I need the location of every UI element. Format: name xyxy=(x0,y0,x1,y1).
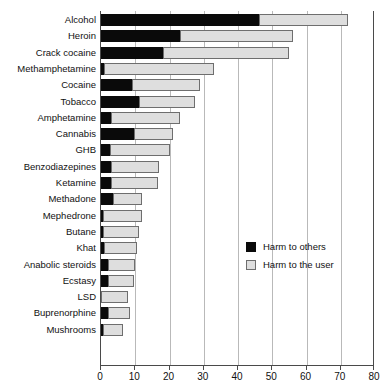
bar-segment-harm-to-the-user xyxy=(108,275,134,287)
bar-segment-harm-to-others xyxy=(101,193,113,205)
legend-swatch-light-gray-square xyxy=(246,260,256,270)
y-axis-label: Cocaine xyxy=(0,79,96,91)
y-axis-label: Anabolic steroids xyxy=(0,259,96,271)
bar-segment-harm-to-others xyxy=(101,30,180,42)
x-axis-tick-labels: 01020304050607080 xyxy=(100,370,374,386)
y-axis-label: Mushrooms xyxy=(0,324,96,336)
bar-segment-harm-to-others xyxy=(101,161,111,173)
bar-segment-harm-to-the-user xyxy=(132,79,201,91)
bar-segment-harm-to-the-user xyxy=(101,291,128,303)
bar-segment-harm-to-others xyxy=(101,144,110,156)
x-tick-label: 20 xyxy=(163,370,174,384)
y-axis-label: Buprenorphine xyxy=(0,307,96,319)
x-tick-label: 60 xyxy=(300,370,311,384)
y-axis-label: Amphetamine xyxy=(0,112,96,124)
y-axis-label: Methamphetamine xyxy=(0,63,96,75)
x-tick-label: 0 xyxy=(97,370,103,384)
x-tick-label: 30 xyxy=(197,370,208,384)
y-axis-label: LSD xyxy=(0,291,96,303)
y-axis-label: GHB xyxy=(0,144,96,156)
bar-segment-harm-to-the-user xyxy=(113,193,142,205)
y-axis-label: Khat xyxy=(0,242,96,254)
x-tick-label: 40 xyxy=(231,370,242,384)
y-axis-label: Heroin xyxy=(0,30,96,42)
bar-segment-harm-to-the-user xyxy=(103,226,139,238)
legend-item-harm-to-others: Harm to others xyxy=(246,240,366,254)
bar-segment-harm-to-the-user xyxy=(108,307,130,319)
bar-segment-harm-to-others xyxy=(101,259,108,271)
bar-segment-harm-to-the-user xyxy=(163,47,290,59)
y-axis-label: Ketamine xyxy=(0,177,96,189)
bar-segment-harm-to-the-user xyxy=(110,144,170,156)
legend-item-harm-to-the-user: Harm to the user xyxy=(246,258,366,272)
plot-area xyxy=(100,11,374,366)
legend-swatch-black-square xyxy=(246,242,256,252)
bar-segment-harm-to-the-user xyxy=(111,161,159,173)
legend-label-harm-to-others: Harm to others xyxy=(263,241,326,253)
y-axis-label: Crack cocaine xyxy=(0,47,96,59)
bar-segment-harm-to-others xyxy=(101,307,108,319)
y-axis-label: Ecstasy xyxy=(0,275,96,287)
bar-segment-harm-to-the-user xyxy=(108,259,135,271)
bar-segment-harm-to-the-user xyxy=(103,324,124,336)
y-axis-label: Benzodiazepines xyxy=(0,161,96,173)
bar-rows xyxy=(101,11,373,365)
y-axis-label: Butane xyxy=(0,226,96,238)
bar-segment-harm-to-others xyxy=(101,47,163,59)
bar-segment-harm-to-others xyxy=(101,177,111,189)
bar-segment-harm-to-the-user xyxy=(180,30,293,42)
legend: Harm to others Harm to the user xyxy=(246,240,366,276)
bar-segment-harm-to-the-user xyxy=(111,112,180,124)
y-axis-label: Methadone xyxy=(0,193,96,205)
legend-label-harm-to-the-user: Harm to the user xyxy=(263,259,334,271)
x-tick-label: 10 xyxy=(129,370,140,384)
bar-segment-harm-to-others xyxy=(101,112,111,124)
bar-segment-harm-to-the-user xyxy=(103,210,142,222)
x-tick-label: 80 xyxy=(368,370,379,384)
y-axis-label: Alcohol xyxy=(0,14,96,26)
y-axis-category-labels: AlcoholHeroinCrack cocaineMethamphetamin… xyxy=(0,11,96,366)
bar-segment-harm-to-others xyxy=(101,128,134,140)
bar-segment-harm-to-others xyxy=(101,79,132,91)
bar-segment-harm-to-the-user xyxy=(259,14,348,26)
y-axis-label: Tobacco xyxy=(0,96,96,108)
bar-segment-harm-to-the-user xyxy=(134,128,173,140)
x-tick-label: 50 xyxy=(266,370,277,384)
bar-segment-harm-to-the-user xyxy=(111,177,157,189)
x-tick-label: 70 xyxy=(334,370,345,384)
y-axis-label: Cannabis xyxy=(0,128,96,140)
bar-segment-harm-to-others xyxy=(101,96,139,108)
bar-segment-harm-to-others xyxy=(101,14,259,26)
bar-segment-harm-to-the-user xyxy=(104,63,214,75)
y-axis-label: Mephedrone xyxy=(0,210,96,222)
bar-segment-harm-to-the-user xyxy=(139,96,196,108)
harm-score-bar-chart: AlcoholHeroinCrack cocaineMethamphetamin… xyxy=(0,0,389,390)
bar-segment-harm-to-others xyxy=(101,275,108,287)
bar-segment-harm-to-the-user xyxy=(104,242,137,254)
